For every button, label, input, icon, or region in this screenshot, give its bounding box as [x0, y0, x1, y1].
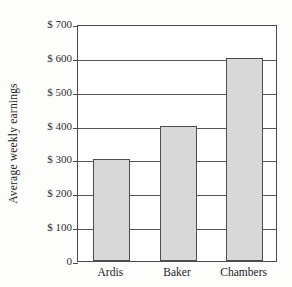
y-axis-tick-labels: 0$ 100$ 200$ 300$ 400$ 500$ 600$ 700: [26, 25, 72, 262]
x-axis-tick-label: Baker: [144, 265, 211, 279]
plot-area: [77, 25, 277, 262]
y-axis-tick-mark: [73, 60, 78, 61]
y-axis-tick-mark: [73, 263, 78, 264]
bar-chart: Average weekly earnings 0$ 100$ 200$ 300…: [0, 0, 292, 287]
y-axis-tick-mark: [73, 94, 78, 95]
x-axis-tick-labels: ArdisBakerChambers: [77, 265, 277, 285]
bar: [226, 58, 263, 261]
bar: [93, 159, 130, 261]
y-axis-tick-label: 0: [28, 256, 72, 267]
x-axis-tick-label: Ardis: [77, 265, 144, 279]
y-axis-tick-mark: [73, 195, 78, 196]
y-axis-tick-mark: [73, 128, 78, 129]
y-axis-tick-mark: [73, 161, 78, 162]
y-axis-title-text: Average weekly earnings: [7, 83, 19, 204]
y-axis-tick-label: $ 200: [28, 188, 72, 199]
x-axis-tick-label: Chambers: [210, 265, 277, 279]
bar: [160, 126, 197, 261]
y-axis-tick-label: $ 500: [28, 87, 72, 98]
y-axis-tick-label: $ 400: [28, 121, 72, 132]
y-axis-tick-mark: [73, 229, 78, 230]
y-axis-tick-label: $ 600: [28, 53, 72, 64]
y-axis-title: Average weekly earnings: [0, 0, 26, 287]
y-axis-tick-label: $ 300: [28, 154, 72, 165]
y-axis-tick-mark: [73, 26, 78, 27]
y-axis-tick-label: $ 100: [28, 222, 72, 233]
y-axis-tick-label: $ 700: [28, 19, 72, 30]
